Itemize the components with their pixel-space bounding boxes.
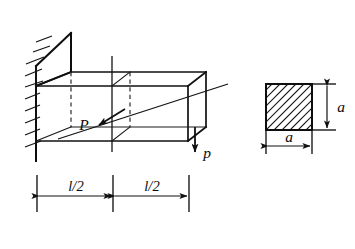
section-width-label: a bbox=[285, 128, 293, 145]
tip-load-p: p bbox=[195, 127, 211, 161]
mechanics-figure: P p l/2 l/2 bbox=[0, 0, 355, 249]
span-dimension-chain: l/2 l/2 bbox=[37, 175, 189, 212]
cross-section-view: a a bbox=[260, 36, 345, 184]
dim-label-right-segment: l/2 bbox=[144, 178, 159, 194]
section-top-receding-edge bbox=[112, 72, 130, 86]
axial-load-P: P bbox=[78, 109, 125, 133]
beam-bottom-left-receding-edge bbox=[36, 127, 71, 141]
axial-load-P-label: P bbox=[78, 116, 89, 133]
section-height-label: a bbox=[337, 98, 345, 115]
dim-label-left-segment: l/2 bbox=[68, 178, 83, 194]
beam-bottom-right-receding-edge bbox=[188, 127, 206, 141]
beam-top-right-receding-edge bbox=[188, 72, 206, 86]
tip-load-p-label: p bbox=[202, 144, 211, 161]
midspan-section-plane bbox=[112, 56, 130, 152]
wall-hatch-ticks bbox=[25, 36, 52, 147]
section-bottom-receding-edge bbox=[112, 127, 130, 141]
figure-canvas: P p l/2 l/2 bbox=[0, 0, 355, 249]
beam-top-left-receding-edge bbox=[36, 72, 71, 86]
beam-solid-body bbox=[36, 72, 206, 141]
